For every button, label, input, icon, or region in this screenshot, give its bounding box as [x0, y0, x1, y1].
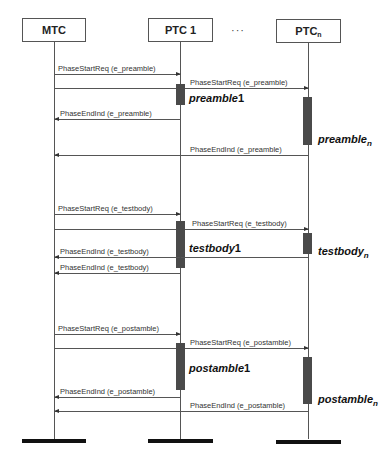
line-mtc-ptc1-preamble: [55, 88, 180, 89]
msg-label: PhaseEndInd (e_postamble): [190, 401, 285, 410]
msg-label: PhaseStartReq (e_testbody): [192, 219, 287, 228]
ellipsis: ···: [231, 24, 245, 36]
msg-label: PhaseStartReq (e_preamble): [58, 64, 156, 73]
activation-ptc1-postamble: [176, 343, 185, 390]
end-bar-ptc1: [148, 439, 213, 443]
arrow-start-req-mtc-ptc1-testbody: [55, 214, 180, 215]
msg-label: PhaseEndInd (e_preamble): [60, 109, 152, 118]
line-ptcn-ptc1-testbody: [181, 257, 308, 258]
phase-label-ptcn-preamble: preamblen: [318, 133, 372, 148]
phase-label-ptcn-postamble: postamblen: [318, 393, 378, 408]
msg-label: PhaseStartReq (e_postamble): [58, 324, 159, 333]
lifeline-mtc: [54, 42, 55, 439]
arrow-end-ind-ptcn-mtc-preamble: [55, 155, 308, 156]
end-bar-ptcn: [276, 440, 341, 444]
arrow-start-req-ptc1-ptcn-testbody: [181, 229, 308, 230]
activation-ptc1-testbody: [176, 221, 185, 268]
msg-label: PhaseStartReq (e_preamble): [190, 78, 288, 87]
activation-ptcn-preamble: [303, 97, 312, 145]
participant-ptc1: PTC 1: [148, 18, 213, 42]
msg-label: PhaseEndInd (e_postamble): [60, 387, 155, 396]
phase-label-ptcn-testbody: testbodyn: [318, 245, 369, 260]
participant-ptc1-label: PTC 1: [165, 24, 196, 36]
activation-ptcn-postamble: [303, 357, 312, 404]
arrow-start-req-ptc1-ptcn-preamble: [181, 88, 308, 89]
arrow-start-req-ptc1-ptcn-postamble: [181, 348, 308, 349]
line-mtc-ptc1-postamble: [55, 348, 180, 349]
line-mtc-ptc1-testbody: [55, 229, 180, 230]
participant-mtc: MTC: [22, 18, 86, 42]
participant-ptcn: PTCn: [276, 19, 341, 43]
arrow-end-ind-ptc1-mtc-postamble: [55, 397, 180, 398]
end-bar-mtc: [22, 439, 86, 443]
arrow-end-ind-ptc1-mtc-testbody: [55, 257, 180, 258]
arrow-end-ind-ptcn-mtc-postamble: [55, 411, 308, 412]
arrow-start-req-mtc-ptc1-postamble: [55, 334, 180, 335]
activation-ptcn-testbody: [303, 233, 312, 254]
msg-label: PhaseEndInd (e_preamble): [190, 145, 282, 154]
arrow-end-ind-ptc1-mtc-preamble: [55, 119, 180, 120]
msg-label: PhaseEndInd (e_testbody): [60, 247, 149, 256]
phase-label-ptc1-preamble: preamble1: [189, 92, 244, 104]
msg-label: PhaseStartReq (e_testbody): [58, 204, 153, 213]
arrow-start-req-mtc-ptc1-preamble: [55, 74, 180, 75]
phase-label-ptc1-postamble: postamble1: [189, 362, 250, 374]
participant-ptcn-label: PTCn: [295, 25, 321, 38]
phase-label-ptc1-testbody: testbody1: [189, 242, 241, 254]
arrow-end-ind-ptcn-mtc-testbody: [55, 273, 180, 274]
activation-ptc1-preamble: [176, 84, 185, 105]
participant-mtc-label: MTC: [42, 24, 66, 36]
msg-label: PhaseEndInd (e_testbody): [60, 263, 149, 272]
msg-label: PhaseStartReq (e_postamble): [190, 338, 291, 347]
